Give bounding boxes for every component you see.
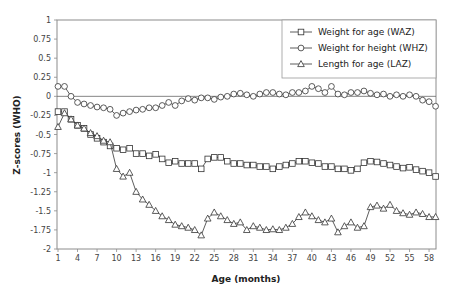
circle-marker-icon [296,90,302,96]
x-tick-label: 10 [111,254,121,263]
circle-marker-icon [62,84,68,90]
x-tick-label: 7 [95,254,100,263]
square-marker-icon [237,161,243,167]
circle-marker-icon [107,106,113,112]
legend-label: Weight for age (WAZ) [318,27,415,37]
square-marker-icon [407,165,413,171]
triangle-marker-icon [133,188,140,194]
circle-marker-icon [348,90,354,96]
square-marker-icon [394,164,400,170]
square-marker-icon [270,166,276,172]
triangle-marker-icon [361,223,368,229]
triangle-marker-icon [380,205,387,211]
x-tick-label: 40 [307,254,317,263]
circle-marker-icon [420,97,426,103]
x-tick-label: 37 [287,254,297,263]
triangle-marker-icon [211,209,218,215]
triangle-marker-icon [224,217,231,223]
circle-marker-icon [146,105,152,111]
circle-marker-icon [185,96,191,102]
square-marker-icon [153,152,159,158]
x-tick-label: 28 [229,254,239,263]
series-circle [55,84,438,119]
square-marker-icon [179,161,185,167]
y-tick-label: 1 [46,16,51,25]
circle-marker-icon [153,105,159,111]
circle-marker-icon [289,90,295,96]
series-line [58,113,436,235]
circle-marker-icon [205,95,211,101]
square-marker-icon [400,165,406,171]
x-tick-label: 58 [424,254,434,263]
circle-marker-icon [381,91,387,97]
circle-marker-icon [316,86,322,92]
square-marker-icon [381,161,387,167]
circle-marker-icon [101,105,107,111]
series-layer [55,84,439,238]
x-tick-label: 43 [326,254,336,263]
square-marker-icon [244,162,250,168]
triangle-marker-icon [315,217,322,223]
y-tick-label: -1 [43,169,51,178]
square-marker-icon [322,164,328,170]
square-marker-icon [257,164,263,170]
circle-marker-icon [88,103,94,109]
square-marker-icon [159,156,165,162]
circle-marker-icon [387,93,393,99]
square-marker-icon [166,160,172,166]
square-marker-icon [120,147,126,153]
circle-marker-icon [81,101,87,107]
x-tick-label: 31 [248,254,258,263]
x-tick-label: 46 [346,254,356,263]
square-marker-icon [316,161,322,167]
circle-marker-icon [159,103,165,109]
circle-marker-icon [192,97,198,103]
circle-marker-icon [224,93,230,99]
square-marker-icon [309,160,315,166]
square-marker-icon [335,166,341,172]
y-tick-label: -1.25 [30,188,51,197]
square-marker-icon [114,145,120,151]
triangle-marker-icon [328,215,335,221]
circle-marker-icon [276,91,282,97]
triangle-marker-icon [348,219,355,225]
circle-marker-icon [335,91,341,97]
triangle-marker-icon [217,213,224,219]
circle-marker-icon [211,96,217,102]
x-tick-label: 13 [131,254,141,263]
square-marker-icon [205,156,211,162]
triangle-marker-icon [237,219,244,225]
circle-marker-icon [355,90,361,96]
circle-marker-icon [127,109,133,115]
triangle-marker-icon [126,169,133,175]
square-marker-icon [433,174,439,180]
circle-marker-icon [133,107,139,113]
circle-marker-icon [75,100,81,106]
circle-marker-icon [361,88,367,94]
circle-marker-icon [120,110,126,116]
x-tick-label: 22 [190,254,200,263]
square-marker-icon [185,161,191,167]
square-marker-icon [329,164,335,170]
circle-marker-icon [309,84,315,90]
square-marker-icon [218,155,224,161]
circle-marker-icon [400,93,406,99]
x-tick-label: 52 [385,254,395,263]
square-marker-icon [420,168,426,174]
x-tick-label: 25 [209,254,219,263]
series-line [58,86,436,115]
square-marker-icon [290,161,296,167]
square-marker-icon [387,162,393,168]
circle-marker-icon [322,90,328,96]
legend-label: Length for age (LAZ) [318,59,411,69]
circle-marker-icon [329,84,335,90]
square-marker-icon [251,162,257,168]
triangle-marker-icon [250,223,257,229]
x-tick-label: 4 [75,254,80,263]
triangle-marker-icon [113,165,120,171]
circle-marker-icon [302,88,308,94]
square-marker-icon [413,167,419,173]
square-marker-icon [146,153,152,159]
y-tick-label: -0.25 [30,111,51,120]
triangle-marker-icon [283,224,290,230]
